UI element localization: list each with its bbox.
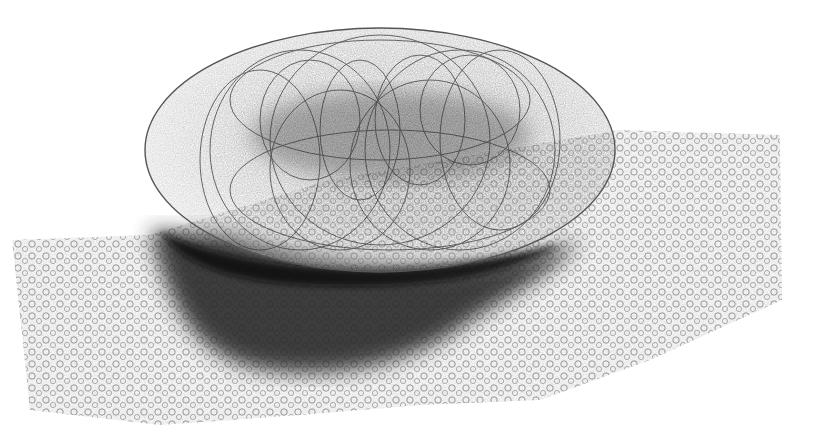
pencil-sketch: [0, 0, 819, 446]
egg-object: [145, 28, 615, 272]
